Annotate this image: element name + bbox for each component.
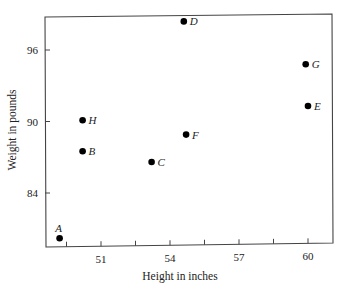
data-point-b: B: [79, 145, 95, 157]
y-axis-ticks: 849096: [27, 44, 50, 199]
point-marker: [181, 18, 188, 25]
point-label: H: [88, 114, 98, 126]
point-marker: [305, 103, 312, 110]
data-point-d: D: [181, 15, 198, 27]
y-tick-label: 96: [27, 44, 39, 56]
data-point-c: C: [148, 156, 165, 168]
point-marker: [79, 117, 86, 124]
point-label: C: [158, 156, 166, 168]
data-point-h: H: [79, 114, 97, 126]
data-point-a: A: [54, 222, 63, 241]
data-point-f: F: [183, 129, 199, 141]
scatter-plot: 51545760 849096 ABCDEFGH Height in inche…: [0, 0, 341, 293]
data-point-g: G: [302, 58, 319, 70]
x-tick-label: 60: [303, 250, 315, 262]
point-marker: [302, 61, 309, 68]
point-marker: [56, 235, 63, 242]
point-label: F: [191, 129, 199, 141]
plot-frame: [45, 14, 333, 247]
point-marker: [183, 131, 190, 138]
point-label: G: [312, 58, 320, 70]
x-axis-ticks: 51545760: [67, 238, 315, 265]
y-tick-label: 84: [27, 187, 39, 199]
x-tick-label: 54: [165, 252, 177, 264]
data-points: ABCDEFGH: [54, 15, 321, 241]
y-tick-label: 90: [27, 116, 39, 128]
plot-border: [45, 14, 333, 247]
x-tick-label: 51: [96, 253, 107, 265]
point-marker: [79, 148, 86, 155]
point-label: E: [313, 100, 321, 112]
data-point-e: E: [305, 100, 321, 112]
y-axis-title: Weight in pounds: [6, 89, 19, 170]
point-label: B: [89, 145, 96, 157]
x-axis-title: Height in inches: [142, 270, 218, 283]
point-marker: [148, 159, 155, 166]
point-label: D: [189, 15, 198, 27]
point-label: A: [54, 222, 62, 234]
x-tick-label: 57: [234, 251, 246, 263]
